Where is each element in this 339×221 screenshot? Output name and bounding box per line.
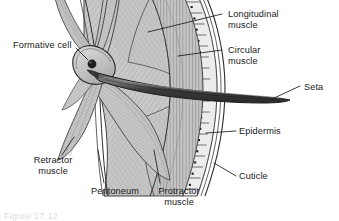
leader-seta	[272, 86, 300, 99]
label-cuticle: Cuticle	[239, 171, 268, 182]
label-retractor-muscle: Retractor muscle	[17, 155, 89, 176]
label-peritoneum: Peritoneum	[84, 186, 146, 197]
anatomy-figure: Formative cell Longitudinal muscle Circu…	[0, 0, 339, 221]
label-formative-cell: Formative cell	[13, 40, 72, 51]
label-seta: Seta	[304, 82, 323, 93]
label-protractor-muscle: Protractor muscle	[143, 186, 215, 207]
label-epidermis: Epidermis	[239, 126, 281, 137]
formative-cell-nucleus	[88, 60, 97, 69]
figure-caption-partial: Figure 17.12	[4, 211, 58, 221]
label-longitudinal-muscle: Longitudinal muscle	[228, 9, 279, 30]
label-circular-muscle: Circular muscle	[228, 45, 260, 66]
